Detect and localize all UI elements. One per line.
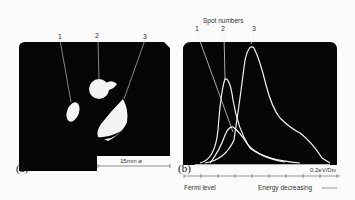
x-axis <box>184 174 340 178</box>
panel-a: 1 2 3 15mm ø (a) <box>16 32 170 175</box>
x-label-fermi: Fermi level <box>184 184 216 191</box>
curve-label-1: 1 <box>195 25 199 32</box>
panel-b-label: (b) <box>178 162 191 175</box>
spot-label-2: 2 <box>95 32 99 39</box>
scale-bar-label: 15mm ø <box>120 158 142 164</box>
spot-label-1: 1 <box>58 33 62 40</box>
spot-numbers-header: Spot numbers <box>203 17 244 25</box>
spot-label-3: 3 <box>143 33 147 40</box>
curve-label-2: 2 <box>221 25 225 32</box>
scale-label: 0.2eV/Div <box>310 167 336 173</box>
panel-b: Spot numbers 1 2 3 0.2eV/Div Fermi level <box>178 17 340 192</box>
figure: 1 2 3 15mm ø (a) Spot numbers 1 2 3 0.2e… <box>0 0 355 200</box>
panel-a-label: (a) <box>16 162 29 175</box>
x-label-energy: Energy decreasing <box>258 184 313 192</box>
panel-a-screen <box>19 42 170 171</box>
spot-2 <box>89 79 109 99</box>
curve-label-3: 3 <box>252 25 256 32</box>
